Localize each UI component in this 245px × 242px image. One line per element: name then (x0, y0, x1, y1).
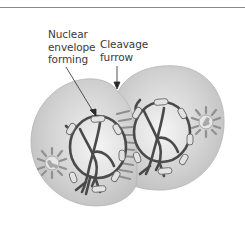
cell-division-illustration (0, 0, 245, 242)
